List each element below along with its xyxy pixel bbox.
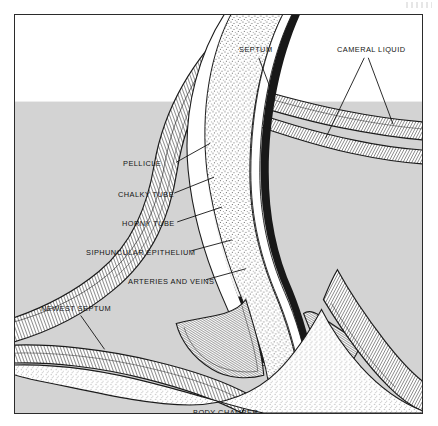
label-body-chamber: BODY CHAMBER	[193, 409, 258, 414]
label-cameral-liquid: CAMERAL LIQUID	[337, 46, 405, 53]
scan-artifact	[406, 2, 432, 8]
label-pellicle: PELLICLE	[123, 160, 161, 167]
label-septum: SEPTUM	[239, 46, 273, 53]
label-newest-septum: NEWEST SEPTUM	[41, 305, 111, 312]
figure-stage: SEPTUM CAMERAL LIQUID PELLICLE CHALKY TU…	[0, 0, 438, 426]
label-siphuncular-epithelium: SIPHUNCULAR EPITHELIUM	[86, 249, 195, 256]
label-horny-tube: HORNY TUBE	[122, 220, 175, 227]
label-chalky-tube: CHALKY TUBE	[118, 191, 174, 198]
siphuncle-illustration	[15, 15, 422, 413]
diagram-frame: SEPTUM CAMERAL LIQUID PELLICLE CHALKY TU…	[14, 14, 423, 414]
label-arteries-and-veins: ARTERIES AND VEINS	[128, 278, 214, 285]
